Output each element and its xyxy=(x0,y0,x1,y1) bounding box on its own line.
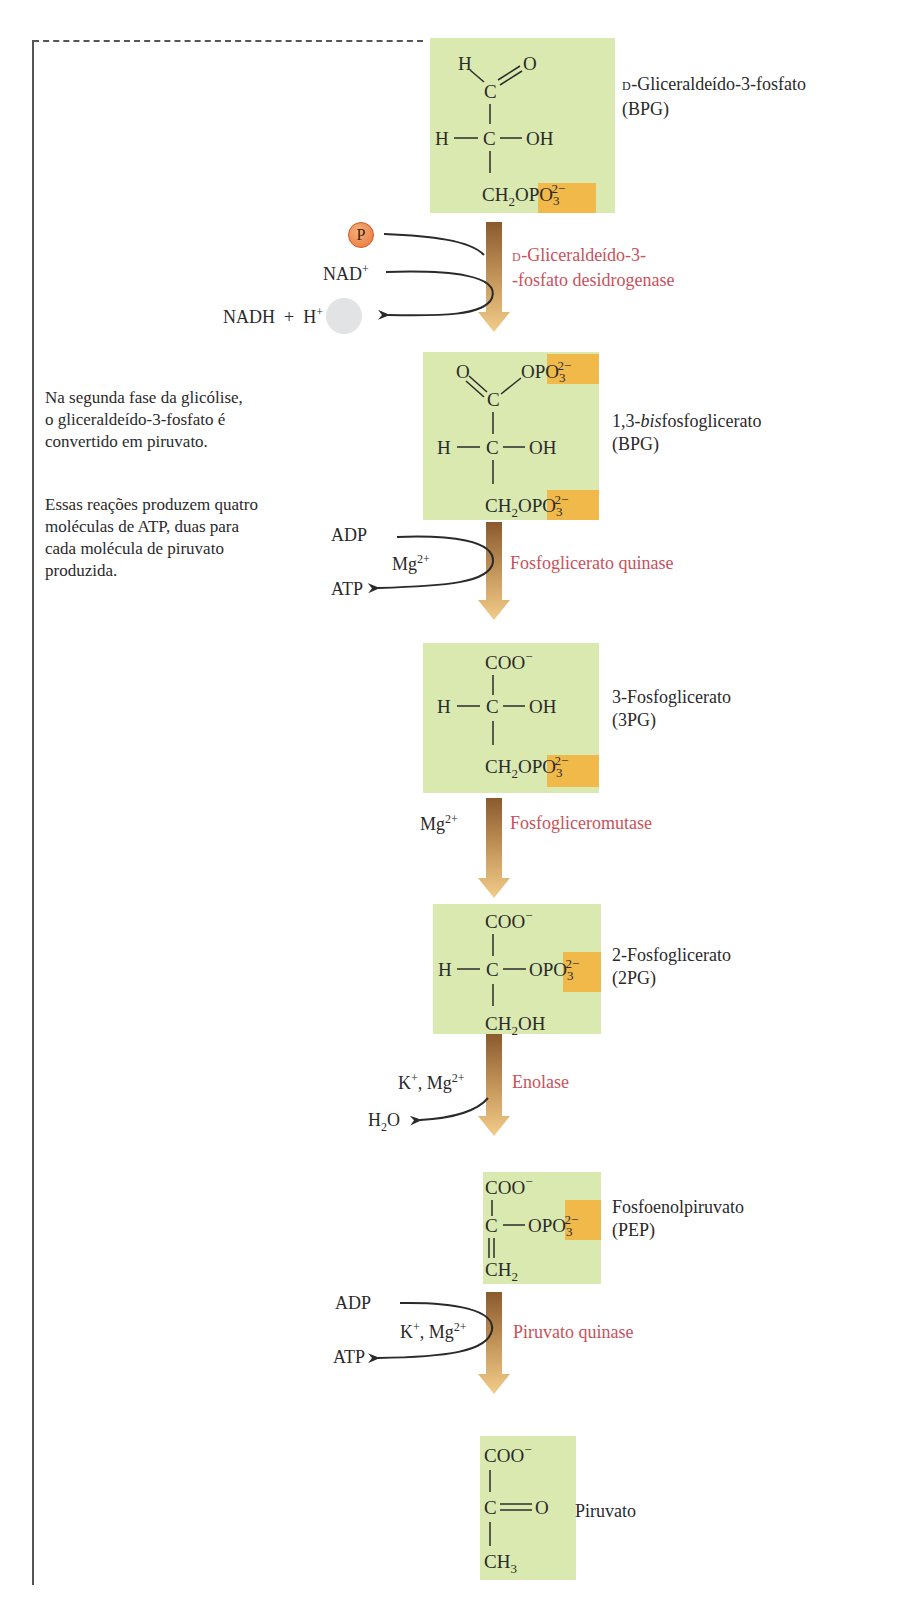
side-reaction-curves-5 xyxy=(0,0,916,1613)
molecule-name: 3-Fosfoglicerato xyxy=(612,686,731,709)
svg-text:O: O xyxy=(523,53,537,74)
reaction-arrow-5 xyxy=(476,1292,512,1396)
enzyme-enolase: Enolase xyxy=(512,1071,569,1094)
h-text: H xyxy=(368,1110,381,1130)
enzyme-line-2: -fosfato desidrogenase xyxy=(512,269,674,292)
svg-text:CH3: CH3 xyxy=(484,1551,517,1576)
k-text: K xyxy=(400,1322,413,1342)
side-reaction-curve-4 xyxy=(0,0,916,1613)
molecule-glyceraldehyde-3-phosphate: H O C H C OH CH2OPO32− xyxy=(430,38,615,213)
svg-text:H: H xyxy=(438,959,452,980)
phosphate-label: P xyxy=(357,226,366,243)
enzyme-phosphoglycerate-kinase: Fosfoglicerato quinase xyxy=(510,552,673,575)
svg-text:C: C xyxy=(485,1215,498,1236)
reaction-arrow-1 xyxy=(476,222,512,334)
molecule-abbr: (PEP) xyxy=(612,1219,744,1242)
mg-charge: 2+ xyxy=(452,1071,465,1085)
molecule-label-glyceraldehyde-3-phosphate: D-Gliceraldeído-3-fosfato (BPG) xyxy=(622,73,806,121)
description-paragraph-1: Na segunda fase da glicólise, o gliceral… xyxy=(45,387,243,453)
svg-text:COO−: COO− xyxy=(485,908,532,932)
svg-text:OH: OH xyxy=(529,696,557,717)
nad-charge: + xyxy=(362,262,369,276)
molecule-label-pyruvate: Piruvato xyxy=(575,1500,636,1523)
svg-text:C: C xyxy=(484,1497,497,1518)
structure-1-3-bisphosphoglycerate: O OPO32− C H C OH CH2OPO32− xyxy=(423,352,599,520)
frame-dashed-border xyxy=(33,40,423,42)
text-line: o gliceraldeído-3-fosfato é xyxy=(45,409,243,431)
atp-label: ATP xyxy=(331,579,363,600)
molecule-pyruvate: COO− C O CH3 xyxy=(480,1436,576,1580)
phosphate-icon: P xyxy=(348,222,374,248)
svg-text:C: C xyxy=(486,696,499,717)
k-charge: + xyxy=(413,1320,420,1334)
nadh-text: NADH xyxy=(223,307,275,327)
svg-text:C: C xyxy=(487,389,500,410)
structure-2-phosphoglycerate: COO− H C OPO32− CH2OH xyxy=(433,904,601,1034)
text-line: moléculas de ATP, duas para xyxy=(45,516,258,538)
proton-charge: + xyxy=(316,305,323,319)
svg-text:O: O xyxy=(535,1497,549,1518)
text-line: cada molécula de piruvato xyxy=(45,538,258,560)
text-line: convertido em piruvato. xyxy=(45,431,243,453)
k-text: K xyxy=(398,1073,411,1093)
svg-text:C: C xyxy=(486,959,499,980)
description-paragraph-2: Essas reações produzem quatro moléculas … xyxy=(45,494,258,582)
d-prefix: D xyxy=(512,250,521,264)
structure-glyceraldehyde-3-phosphate: H O C H C OH CH2OPO32− xyxy=(430,38,615,213)
molecule-abbr: (BPG) xyxy=(622,98,806,121)
mg-text: Mg xyxy=(427,1073,452,1093)
svg-text:H: H xyxy=(437,437,451,458)
svg-text:OH: OH xyxy=(529,437,557,458)
k-charge: + xyxy=(411,1071,418,1085)
nad-text: NAD xyxy=(323,264,362,284)
k-mg-cofactor-label: K+, Mg2+ xyxy=(400,1320,467,1343)
proton-text: H xyxy=(303,307,316,327)
svg-text:OH: OH xyxy=(526,128,554,149)
structure-phosphoenolpyruvate: COO− C OPO32− CH2 xyxy=(483,1172,601,1284)
water-label: H2O xyxy=(368,1110,400,1135)
svg-text:COO−: COO− xyxy=(485,1174,532,1198)
reaction-arrow-2 xyxy=(476,522,512,622)
separator: , xyxy=(418,1073,427,1093)
name-italic-part: bis xyxy=(641,411,662,431)
plus-sign: + xyxy=(284,307,294,327)
structure-3-phosphoglycerate: COO− H C OH CH2OPO32− xyxy=(423,643,599,793)
o-text: O xyxy=(387,1110,400,1130)
name-part: fosfoglicerato xyxy=(662,411,762,431)
d-prefix: D xyxy=(622,79,631,93)
molecule-3-phosphoglycerate: COO− H C OH CH2OPO32− xyxy=(423,643,599,793)
text-line: Na segunda fase da glicólise, xyxy=(45,387,243,409)
molecule-name: Fosfoenolpiruvato xyxy=(612,1196,744,1219)
svg-text:OPO32−: OPO32− xyxy=(521,358,571,385)
text-line: produzida. xyxy=(45,560,258,582)
frame-left-border xyxy=(32,40,34,1585)
molecule-label-2-phosphoglycerate: 2-Fosfoglicerato (2PG) xyxy=(612,944,731,990)
molecule-phosphoenolpyruvate: COO− C OPO32− CH2 xyxy=(483,1172,601,1284)
mg-cofactor-label: Mg2+ xyxy=(392,552,430,575)
molecule-name: Piruvato xyxy=(575,1500,636,1523)
svg-text:CH2OPO32−: CH2OPO32− xyxy=(482,181,565,209)
molecule-abbr: (3PG) xyxy=(612,709,731,732)
molecule-label-1-3-bisphosphoglycerate: 1,3-bisfosfoglicerato (BPG) xyxy=(612,410,761,456)
svg-text:C: C xyxy=(483,128,496,149)
molecule-abbr: (2PG) xyxy=(612,967,731,990)
nad-plus-label: NAD+ xyxy=(323,262,369,285)
proton-circle-icon xyxy=(326,298,362,334)
mg-cofactor-label: Mg2+ xyxy=(420,812,458,835)
molecule-name: 2-Fosfoglicerato xyxy=(612,944,731,967)
mg-text: Mg xyxy=(429,1322,454,1342)
svg-text:OPO32−: OPO32− xyxy=(528,1212,578,1239)
enzyme-phosphoglyceromutase: Fosfogliceromutase xyxy=(510,812,652,835)
structure-pyruvate: COO− C O CH3 xyxy=(480,1436,576,1580)
molecule-label-phosphoenolpyruvate: Fosfoenolpiruvato (PEP) xyxy=(612,1196,744,1242)
enzyme-gapdh: D-Gliceraldeído-3- -fosfato desidrogenas… xyxy=(512,244,674,292)
side-reaction-curves-1 xyxy=(0,0,916,1613)
molecule-abbr: (BPG) xyxy=(612,433,761,456)
mg-charge: 2+ xyxy=(445,812,458,826)
molecule-label-3-phosphoglycerate: 3-Fosfoglicerato (3PG) xyxy=(612,686,731,732)
enzyme-pyruvate-kinase: Piruvato quinase xyxy=(513,1321,633,1344)
text-line: Essas reações produzem quatro xyxy=(45,494,258,516)
svg-text:CH2: CH2 xyxy=(485,1259,518,1284)
mg-charge: 2+ xyxy=(417,552,430,566)
molecule-2-phosphoglycerate: COO− H C OPO32− CH2OH xyxy=(433,904,601,1034)
